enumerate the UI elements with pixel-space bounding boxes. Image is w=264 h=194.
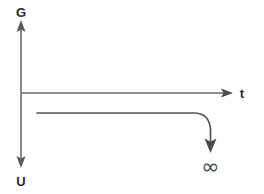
asymptote-curve	[37, 113, 211, 142]
diagram-canvas: G U t ∞	[0, 0, 264, 194]
axis-label-g: G	[16, 5, 26, 20]
axis-label-u: U	[16, 174, 25, 189]
axis-label-t: t	[240, 86, 245, 101]
infinity-icon: ∞	[201, 154, 219, 179]
gu-t-diagram: G U t ∞	[0, 0, 264, 194]
